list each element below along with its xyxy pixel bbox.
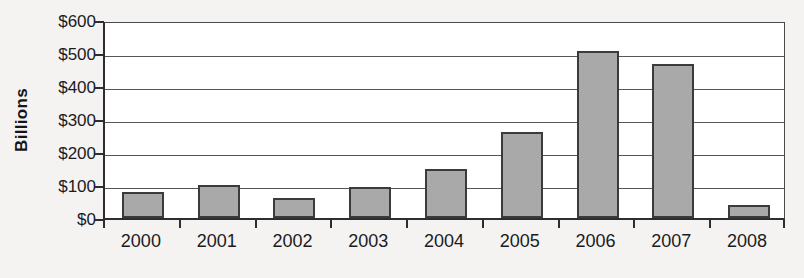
y-axis-tick-label: $0 — [34, 210, 96, 230]
bar-chart: Billions $0$100$200$300$400$500$600 2000… — [0, 0, 804, 278]
y-axis-tick-labels: $0$100$200$300$400$500$600 — [34, 22, 96, 220]
y-axis-tick-label: $400 — [34, 78, 96, 98]
x-axis-tick-label: 2005 — [500, 231, 540, 252]
x-axis-tick-labels: 200020012002200320042005200620072008 — [103, 231, 785, 261]
x-axis-tick-mark — [783, 220, 785, 228]
y-axis-tick-label: $100 — [34, 177, 96, 197]
bar — [273, 198, 315, 218]
y-axis-title-label: Billions — [12, 88, 32, 152]
bar — [122, 192, 164, 218]
x-axis-tick-label: 2006 — [576, 231, 616, 252]
x-axis-tick-mark — [709, 220, 711, 228]
x-axis-tick-mark — [633, 220, 635, 228]
bar — [652, 64, 694, 218]
y-axis-tick-label: $600 — [34, 12, 96, 32]
y-axis-tick-label: $500 — [34, 45, 96, 65]
x-axis-tick-label: 2003 — [348, 231, 388, 252]
bar — [349, 187, 391, 218]
x-axis-tick-label: 2004 — [424, 231, 464, 252]
bar — [728, 205, 770, 218]
x-axis-tick-mark — [558, 220, 560, 228]
x-axis-tick-label: 2008 — [727, 231, 767, 252]
x-axis-tick-label: 2007 — [651, 231, 691, 252]
y-axis-tick-label: $200 — [34, 144, 96, 164]
x-axis-tick-label: 2000 — [121, 231, 161, 252]
x-axis-tick-marks — [103, 220, 785, 229]
x-axis-tick-mark — [179, 220, 181, 228]
y-axis-tick-label: $300 — [34, 111, 96, 131]
x-axis-tick-mark — [330, 220, 332, 228]
bar — [198, 185, 240, 218]
x-axis-tick-label: 2002 — [272, 231, 312, 252]
x-axis-tick-label: 2001 — [197, 231, 237, 252]
x-axis-tick-mark — [255, 220, 257, 228]
x-axis-tick-mark — [482, 220, 484, 228]
bar — [501, 132, 543, 218]
x-axis-tick-mark — [406, 220, 408, 228]
bars-layer — [105, 23, 784, 218]
bar — [577, 51, 619, 218]
bar — [425, 169, 467, 219]
x-axis-tick-mark — [103, 220, 105, 228]
plot-area — [103, 22, 785, 220]
